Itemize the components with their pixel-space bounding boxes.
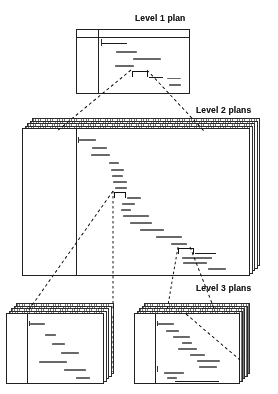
connector-l2b-to-l3right-left [167, 247, 178, 311]
callout-l3right-inner [186, 314, 240, 360]
connector-l2b-to-l3right-right [190, 247, 215, 311]
connector-l1-to-l2-right [147, 70, 204, 131]
connector-l2a-to-l3left-right [28, 191, 113, 311]
connector-l1-to-l2-left [57, 70, 131, 131]
diagram-canvas: Level 1 plan Level 2 plans [0, 0, 278, 394]
explosion-connector-fans [0, 0, 278, 394]
